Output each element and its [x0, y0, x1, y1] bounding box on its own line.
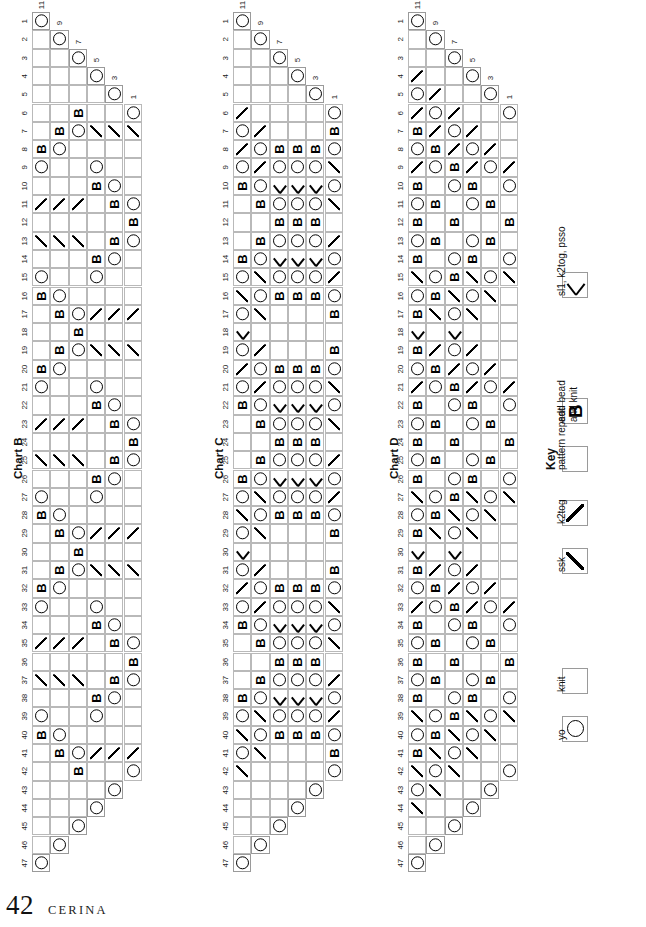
chart-cell[interactable]	[124, 744, 142, 762]
chart-cell[interactable]	[50, 396, 68, 414]
chart-cell[interactable]: B	[306, 360, 324, 378]
chart-cell[interactable]	[481, 104, 499, 122]
chart-cell[interactable]	[445, 634, 463, 652]
chart-cell[interactable]	[251, 653, 269, 671]
chart-cell[interactable]	[50, 653, 68, 671]
chart-cell[interactable]	[463, 543, 481, 561]
chart-cell[interactable]	[325, 488, 343, 506]
chart-cell[interactable]	[408, 781, 426, 799]
chart-cell[interactable]	[50, 378, 68, 396]
chart-cell[interactable]	[306, 122, 324, 140]
chart-cell[interactable]	[463, 104, 481, 122]
chart-cell[interactable]	[69, 689, 87, 707]
chart-cell[interactable]	[500, 158, 518, 176]
chart-cell[interactable]	[32, 12, 50, 30]
chart-cell[interactable]	[325, 360, 343, 378]
chart-cell[interactable]	[32, 268, 50, 286]
chart-cell[interactable]: B	[306, 726, 324, 744]
chart-cell[interactable]	[251, 616, 269, 634]
chart-cell[interactable]	[445, 195, 463, 213]
chart-cell[interactable]	[288, 799, 306, 817]
chart-cell[interactable]	[251, 799, 269, 817]
chart-cell[interactable]: B	[408, 744, 426, 762]
chart-cell[interactable]	[69, 287, 87, 305]
chart-cell[interactable]: B	[306, 653, 324, 671]
chart-cell[interactable]	[500, 195, 518, 213]
chart-cell[interactable]	[124, 122, 142, 140]
chart-cell[interactable]	[105, 323, 123, 341]
chart-cell[interactable]	[233, 726, 251, 744]
chart-cell[interactable]: B	[325, 524, 343, 542]
chart-cell[interactable]	[69, 671, 87, 689]
chart-cell[interactable]	[426, 396, 444, 414]
chart-cell[interactable]	[426, 85, 444, 103]
chart-cell[interactable]	[270, 744, 288, 762]
chart-cell[interactable]	[306, 707, 324, 725]
chart-cell[interactable]	[105, 158, 123, 176]
chart-cell[interactable]	[124, 232, 142, 250]
chart-cell[interactable]	[288, 671, 306, 689]
chart-cell[interactable]	[306, 415, 324, 433]
chart-cell[interactable]	[325, 158, 343, 176]
chart-cell[interactable]: B	[408, 177, 426, 195]
chart-cell[interactable]	[325, 470, 343, 488]
chart-cell[interactable]	[50, 799, 68, 817]
chart-cell[interactable]	[50, 85, 68, 103]
chart-cell[interactable]	[500, 104, 518, 122]
chart-cell[interactable]	[87, 415, 105, 433]
chart-cell[interactable]	[87, 506, 105, 524]
chart-cell[interactable]	[50, 451, 68, 469]
chart-cell[interactable]	[251, 524, 269, 542]
chart-cell[interactable]	[306, 671, 324, 689]
chart-cell[interactable]	[500, 506, 518, 524]
chart-cell[interactable]	[481, 744, 499, 762]
chart-cell[interactable]: B	[408, 213, 426, 231]
chart-cell[interactable]	[50, 433, 68, 451]
chart-cell[interactable]	[426, 689, 444, 707]
chart-cell[interactable]	[251, 158, 269, 176]
chart-cell[interactable]	[69, 781, 87, 799]
chart-cell[interactable]	[463, 781, 481, 799]
chart-cell[interactable]	[124, 524, 142, 542]
chart-cell[interactable]: B	[251, 415, 269, 433]
chart-cell[interactable]: B	[87, 250, 105, 268]
chart-cell[interactable]	[270, 195, 288, 213]
chart-cell[interactable]	[69, 598, 87, 616]
chart-cell[interactable]	[124, 360, 142, 378]
chart-cell[interactable]	[463, 378, 481, 396]
chart-cell[interactable]	[500, 634, 518, 652]
chart-cell[interactable]	[426, 616, 444, 634]
chart-cell[interactable]	[87, 433, 105, 451]
chart-cell[interactable]	[463, 671, 481, 689]
chart-cell[interactable]: B	[445, 488, 463, 506]
chart-cell[interactable]	[50, 232, 68, 250]
chart-cell[interactable]	[105, 140, 123, 158]
chart-cell[interactable]	[50, 616, 68, 634]
chart-cell[interactable]	[32, 341, 50, 359]
chart-cell[interactable]	[233, 104, 251, 122]
chart-cell[interactable]	[500, 470, 518, 488]
chart-cell[interactable]: B	[251, 451, 269, 469]
chart-cell[interactable]: B	[288, 579, 306, 597]
chart-cell[interactable]	[233, 305, 251, 323]
chart-cell[interactable]	[50, 781, 68, 799]
chart-cell[interactable]	[463, 122, 481, 140]
chart-cell[interactable]	[105, 287, 123, 305]
chart-cell[interactable]	[481, 762, 499, 780]
chart-cell[interactable]: B	[124, 213, 142, 231]
chart-cell[interactable]	[306, 744, 324, 762]
chart-cell[interactable]	[251, 488, 269, 506]
chart-cell[interactable]	[445, 671, 463, 689]
chart-cell[interactable]: B	[306, 433, 324, 451]
chart-cell[interactable]	[69, 268, 87, 286]
chart-cell[interactable]: B	[233, 689, 251, 707]
chart-cell[interactable]: B	[325, 744, 343, 762]
chart-cell[interactable]	[69, 799, 87, 817]
chart-cell[interactable]	[445, 104, 463, 122]
chart-cell[interactable]	[124, 543, 142, 561]
chart-cell[interactable]	[463, 744, 481, 762]
chart-cell[interactable]	[233, 762, 251, 780]
chart-cell[interactable]	[463, 287, 481, 305]
chart-cell[interactable]	[408, 579, 426, 597]
chart-cell[interactable]: B	[481, 671, 499, 689]
